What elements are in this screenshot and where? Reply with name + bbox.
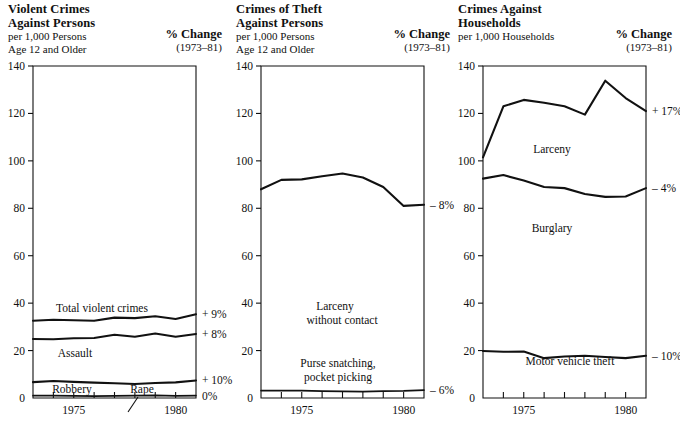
- percent-change-years: (1973–81): [127, 41, 222, 54]
- x-tick-label: 1980: [164, 404, 187, 416]
- series-line: [33, 395, 196, 396]
- percent-change-labels: – 8%– 6%: [429, 199, 454, 396]
- annotations: LarcenyBurglaryMotor vehicle theft: [526, 143, 616, 367]
- plot-area: 02040608010012014019751980Larcenywithout…: [230, 60, 452, 410]
- x-tick-label: 1975: [512, 404, 535, 416]
- percent-change-title: % Change: [355, 27, 450, 41]
- y-tick-label: 100: [458, 155, 476, 167]
- panel-title-line1: Crimes of Theft: [236, 3, 452, 17]
- percent-change-label: + 9%: [202, 308, 227, 320]
- series-annotation: without contact: [306, 314, 378, 326]
- y-tick-label: 0: [469, 392, 475, 404]
- series-annotation: Burglary: [532, 222, 573, 235]
- y-tick-label: 60: [242, 250, 254, 262]
- axes: 02040608010012014019751980: [8, 60, 196, 416]
- series-line: [33, 333, 196, 339]
- y-tick-label: 60: [464, 250, 476, 262]
- series-annotation: Robbery: [52, 383, 92, 396]
- x-tick-label: 1980: [392, 404, 415, 416]
- percent-change-label: – 10%: [651, 350, 680, 362]
- panel-title-line1: Crimes Against: [458, 3, 674, 17]
- series-annotation: Rape: [130, 383, 154, 396]
- annotation-leader-line: [128, 397, 138, 412]
- series-line: [261, 390, 424, 391]
- y-tick-label: 40: [464, 297, 476, 309]
- percent-change-header: % Change(1973–81): [127, 27, 222, 54]
- y-tick-label: 40: [242, 297, 254, 309]
- y-tick-label: 0: [247, 392, 253, 404]
- percent-change-label: + 10%: [202, 374, 233, 386]
- series-annotation: Motor vehicle theft: [526, 355, 616, 367]
- percent-change-header: % Change(1973–81): [577, 27, 672, 54]
- series-line: [33, 314, 196, 320]
- plot-frame: [261, 66, 424, 398]
- percent-change-label: – 8%: [429, 199, 454, 211]
- percent-change-label: + 17%: [652, 105, 680, 117]
- percent-change-years: (1973–81): [355, 41, 450, 54]
- y-tick-label: 120: [236, 107, 254, 119]
- series-annotation: pocket picking: [304, 371, 372, 384]
- plot-area: 02040608010012014019751980Total violent …: [2, 60, 224, 410]
- percent-change-label: – 4%: [651, 182, 676, 194]
- percent-change-years: (1973–81): [577, 41, 672, 54]
- percent-change-labels: + 17%– 4%– 10%: [651, 105, 680, 362]
- y-tick-label: 80: [242, 202, 254, 214]
- percent-change-header: % Change(1973–81): [355, 27, 450, 54]
- y-tick-label: 80: [14, 202, 26, 214]
- series-annotation: Larceny: [533, 143, 571, 156]
- percent-change-label: – 6%: [429, 384, 454, 396]
- y-tick-label: 20: [242, 345, 254, 357]
- chart-panel-violent-crimes: Violent CrimesAgainst Personsper 1,000 P…: [2, 0, 224, 424]
- series-line: [483, 175, 646, 197]
- y-tick-label: 20: [464, 345, 476, 357]
- y-tick-label: 40: [14, 297, 26, 309]
- y-tick-label: 120: [8, 107, 26, 119]
- y-tick-label: 20: [14, 345, 26, 357]
- series-annotation: Assault: [58, 347, 93, 359]
- chart-panel-crimes-of-theft: Crimes of TheftAgainst Personsper 1,000 …: [230, 0, 452, 424]
- percent-change-label: + 8%: [202, 328, 227, 340]
- plot-area: 02040608010012014019751980LarcenyBurglar…: [452, 60, 674, 410]
- y-tick-label: 80: [464, 202, 476, 214]
- x-tick-label: 1975: [290, 404, 313, 416]
- series-line: [261, 173, 424, 205]
- percent-change-label: 0%: [202, 390, 218, 402]
- percent-change-labels: + 9%+ 8%+ 10%0%: [202, 308, 233, 401]
- annotations: Larcenywithout contactPurse snatching,po…: [300, 300, 378, 384]
- x-tick-label: 1975: [62, 404, 85, 416]
- x-tick-label: 1980: [614, 404, 637, 416]
- percent-change-title: % Change: [127, 27, 222, 41]
- series-annotation: Purse snatching,: [300, 357, 376, 370]
- percent-change-title: % Change: [577, 27, 672, 41]
- y-tick-label: 140: [8, 60, 26, 72]
- series-annotation: Total violent crimes: [56, 302, 148, 314]
- y-tick-label: 120: [458, 107, 476, 119]
- y-tick-label: 140: [458, 60, 476, 72]
- series-annotation: Larceny: [316, 300, 354, 313]
- series-group: [483, 81, 646, 358]
- y-tick-label: 60: [14, 250, 26, 262]
- chart-panel-crimes-against-households: Crimes AgainstHouseholdsper 1,000 Househ…: [452, 0, 674, 424]
- y-tick-label: 100: [8, 155, 26, 167]
- panel-title-line1: Violent Crimes: [8, 3, 224, 17]
- y-tick-label: 0: [19, 392, 25, 404]
- y-tick-label: 100: [236, 155, 254, 167]
- y-tick-label: 140: [236, 60, 254, 72]
